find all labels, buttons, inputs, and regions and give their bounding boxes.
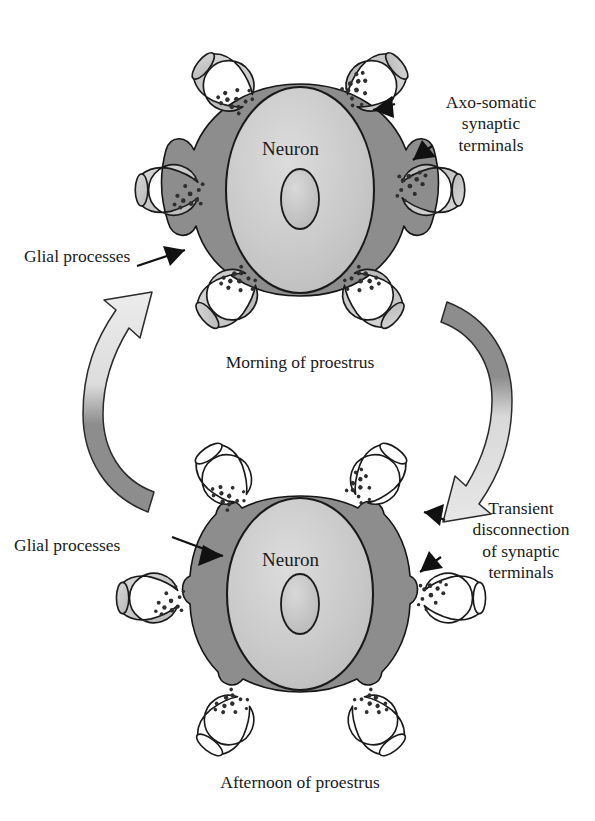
figure-canvas: Axo-somatic synaptic terminals Glial pro… (0, 0, 595, 821)
caption-afternoon-of-proestrus: Afternoon of proestrus (178, 772, 422, 793)
vesicle-cluster (211, 684, 254, 727)
synaptic-terminal-detached (336, 682, 416, 765)
pointer-arrow-transient-1 (424, 504, 445, 526)
synaptic-terminal-detached (186, 682, 266, 765)
neuron-nucleus-bottom (281, 574, 319, 634)
label-axo-somatic-synaptic-terminals: Axo-somatic synaptic terminals (396, 92, 586, 156)
synaptic-terminal-detached (116, 573, 185, 622)
pointer-arrow-glial-top (137, 246, 185, 266)
label-glial-processes-bottom: Glial processes (14, 535, 120, 556)
pointer-arrow-transient-2 (420, 551, 443, 572)
panel-morning-of-proestrus (135, 42, 464, 339)
neuron-label-bottom: Neuron (262, 548, 319, 571)
neuron-nucleus-top (281, 169, 319, 229)
neuron-label-top: Neuron (262, 137, 319, 160)
label-transient-disconnection: Transient disconnection of synaptic term… (452, 498, 590, 583)
panel-afternoon-of-proestrus (116, 434, 485, 765)
cycle-arrow-left (83, 292, 154, 512)
vesicle-cluster (349, 684, 392, 727)
cycle-arrow-right (441, 302, 512, 522)
label-glial-processes-top: Glial processes (24, 246, 130, 267)
caption-morning-of-proestrus: Morning of proestrus (184, 352, 416, 373)
